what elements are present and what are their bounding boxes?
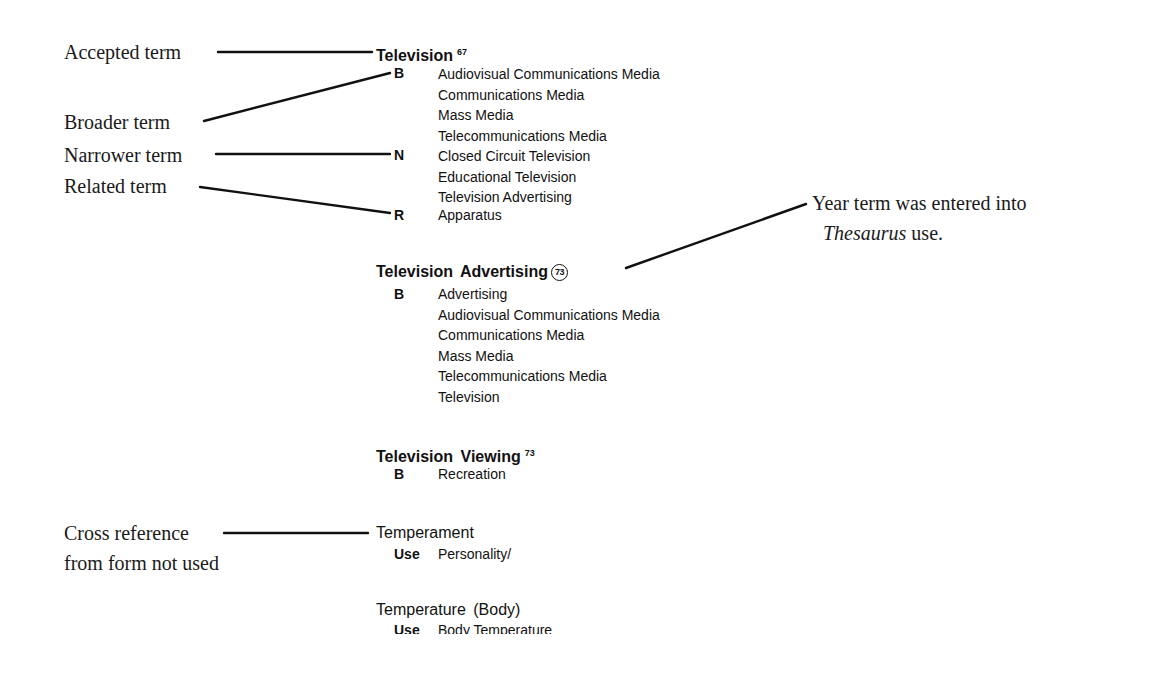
annotation-related-term: Related term [64, 174, 167, 198]
broader-term-item: Recreation [438, 464, 506, 485]
related-code: R [394, 205, 404, 226]
leader-year [626, 204, 806, 268]
entry-term: Television Viewing [376, 448, 521, 465]
television-related-list: Apparatus [438, 205, 502, 226]
year-superscript: 73 [525, 448, 535, 458]
entry-temperature-body-heading: Temperature (Body) [376, 600, 520, 620]
broader-term-item: Audiovisual Communications Media [438, 305, 660, 326]
broader-code: B [394, 464, 404, 485]
leader-broader [204, 73, 390, 121]
broader-term-item: Audiovisual Communications Media [438, 64, 660, 85]
narrower-term-item: Educational Television [438, 167, 590, 188]
television-advertising-broader-list: Advertising Audiovisual Communications M… [438, 284, 660, 407]
use-target: Personality/ [438, 544, 511, 565]
year-circled: 73 [551, 264, 568, 281]
narrower-term-item: Closed Circuit Television [438, 146, 590, 167]
use-code: Use [394, 620, 420, 634]
entry-term: Television [376, 47, 453, 64]
broader-term-item: Telecommunications Media [438, 126, 660, 147]
broader-code: B [394, 63, 404, 84]
use-code: Use [394, 544, 420, 565]
broader-term-item: Communications Media [438, 85, 660, 106]
related-term-item: Apparatus [438, 205, 502, 226]
use-target: Body Temperature [438, 620, 552, 634]
annotation-broader-term: Broader term [64, 110, 170, 134]
annotation-year-note-line1: Year term was entered into [812, 191, 1027, 215]
cropped-use-line: Use Body Temperature [380, 620, 680, 634]
broader-term-item: Television [438, 387, 660, 408]
thesaurus-italic: Thesaurus [823, 222, 906, 244]
entry-television-advertising-heading: Television Advertising73 [376, 262, 568, 282]
year-superscript: 67 [457, 47, 467, 57]
television-viewing-broader-list: Recreation [438, 464, 506, 485]
year-note-rest: use. [906, 222, 943, 244]
annotation-year-note-line2: Thesaurus use. [823, 221, 943, 245]
broader-term-item: Mass Media [438, 346, 660, 367]
narrower-code: N [394, 145, 404, 166]
broader-code: B [394, 284, 404, 305]
broader-term-item: Advertising [438, 284, 660, 305]
annotation-cross-reference-line2: from form not used [64, 551, 219, 575]
annotation-accepted-term: Accepted term [64, 40, 181, 64]
leader-related [200, 187, 390, 213]
annotation-narrower-term: Narrower term [64, 143, 182, 167]
broader-term-item: Mass Media [438, 105, 660, 126]
entry-television-heading: Television67 [376, 42, 467, 66]
television-narrower-list: Closed Circuit Television Educational Te… [438, 146, 590, 208]
broader-term-item: Communications Media [438, 325, 660, 346]
broader-term-item: Telecommunications Media [438, 366, 660, 387]
entry-temperament-heading: Temperament [376, 523, 474, 543]
television-broader-list: Audiovisual Communications Media Communi… [438, 64, 660, 146]
annotation-cross-reference-line1: Cross reference [64, 521, 189, 545]
entry-term: Television Advertising [376, 263, 548, 280]
